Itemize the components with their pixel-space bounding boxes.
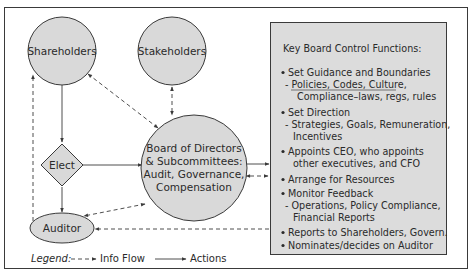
node-shareholders: Shareholders <box>27 17 96 85</box>
legend-info-flow-label: Info Flow <box>100 253 145 264</box>
function-subitem: Compliance–laws, regs, rules <box>297 91 436 102</box>
bullet-icon <box>281 192 284 195</box>
function-subitem: Incentives <box>293 131 342 142</box>
bullet-icon <box>281 231 284 234</box>
board-label-line-3: Audit, Governance, <box>144 168 245 180</box>
functions-box-title: Key Board Control Functions: <box>283 43 421 54</box>
function-item: Set Guidance and Boundaries <box>288 67 430 78</box>
function-subitem: - Policies, Codes, Culture, <box>285 79 407 90</box>
function-subitem: other executives, and CFO <box>293 158 420 169</box>
bullet-icon <box>281 71 284 74</box>
legend: Legend: Info Flow Actions <box>31 253 227 264</box>
function-subitem: - Operations, Policy Compliance, <box>285 200 441 211</box>
legend-label: Legend: <box>31 253 71 264</box>
bullet-icon <box>281 111 284 114</box>
function-item: Arrange for Resources <box>288 174 395 185</box>
function-item: Set Direction <box>288 107 350 118</box>
bullet-icon <box>281 178 284 181</box>
legend-actions-label: Actions <box>190 253 227 264</box>
corporate-governance-diagram: Key Board Control Functions: Set Guidanc… <box>0 0 473 277</box>
board-label-line-2: & Subcommittees: <box>145 155 242 167</box>
bullet-icon <box>281 150 284 153</box>
function-item: Monitor Feedback <box>288 188 374 199</box>
function-subitem: - Strategies, Goals, Remuneration, <box>285 119 450 130</box>
node-auditor: Auditor <box>30 213 94 243</box>
board-label-line-1: Board of Directors <box>146 142 241 154</box>
function-item: Reports to Shareholders, Govern. <box>288 227 448 238</box>
function-item: Nominates/decides on Auditor <box>288 240 433 251</box>
stakeholders-label: Stakeholders <box>138 45 206 57</box>
shareholders-label: Shareholders <box>27 45 96 57</box>
node-stakeholders: Stakeholders <box>138 17 206 85</box>
function-subitem: Financial Reports <box>293 212 375 223</box>
node-board: Board of Directors & Subcommittees: Audi… <box>141 115 247 221</box>
auditor-label: Auditor <box>43 222 82 234</box>
board-label-line-4: Compensation <box>156 181 232 193</box>
elect-label: Elect <box>49 159 75 171</box>
function-item: Appoints CEO, who appoints <box>288 146 424 157</box>
bullet-icon <box>281 244 284 247</box>
